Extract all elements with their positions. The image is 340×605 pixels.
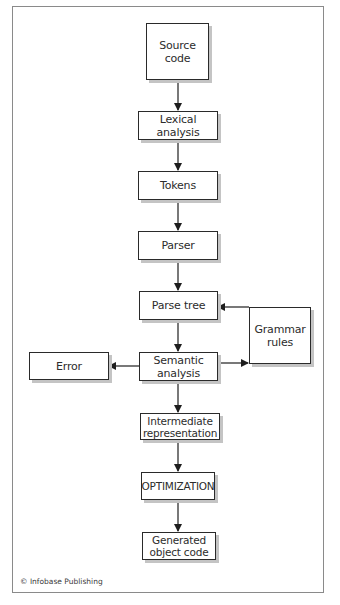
copyright-text: © Infobase Publishing xyxy=(20,577,103,586)
node-grammar-rules: Grammar rules xyxy=(249,307,311,364)
node-lexical-analysis: Lexical analysis xyxy=(138,111,218,140)
node-source-code: Source code xyxy=(146,23,209,80)
node-generated-object-code: Generated object code xyxy=(142,532,216,560)
node-optimization: OPTIMIZATION xyxy=(141,472,215,500)
node-parse-tree: Parse tree xyxy=(139,291,218,320)
node-semantic-analysis: Semantic analysis xyxy=(139,352,218,381)
node-tokens: Tokens xyxy=(138,171,218,200)
node-parser: Parser xyxy=(138,231,218,260)
node-error: Error xyxy=(29,352,109,380)
node-intermediate-representation: Intermediate representation xyxy=(140,413,220,440)
